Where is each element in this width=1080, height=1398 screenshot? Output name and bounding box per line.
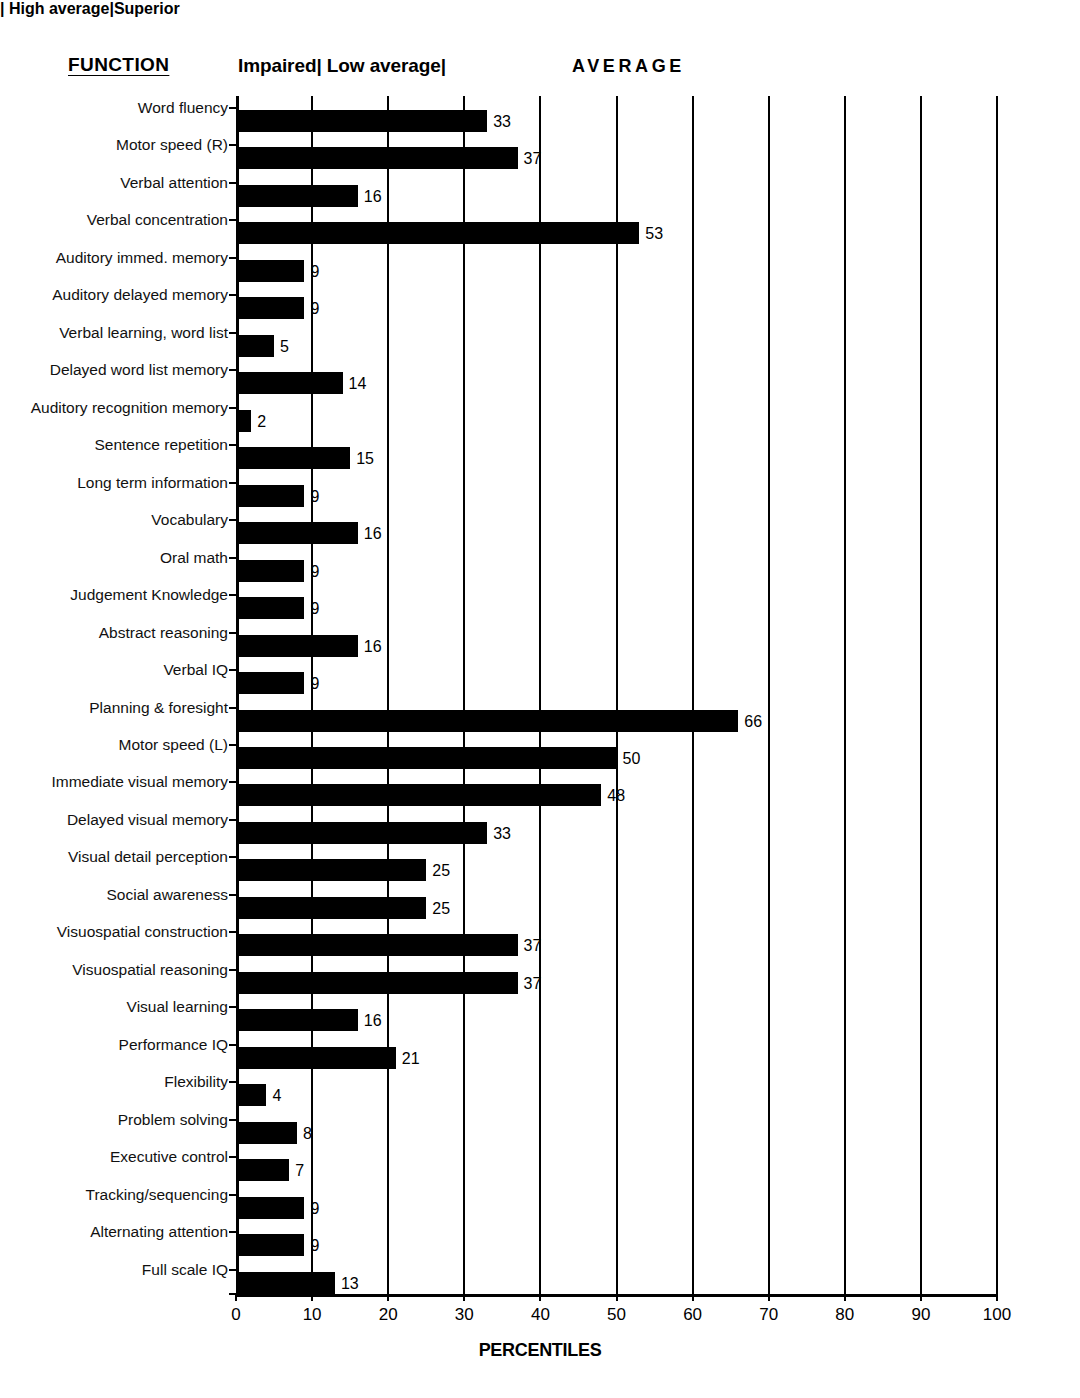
category-label: Visuospatial construction [0, 923, 228, 941]
bar [236, 672, 304, 694]
x-tick-label-10: 10 [303, 1305, 322, 1325]
bar [236, 147, 518, 169]
x-tick-label-70: 70 [759, 1305, 778, 1325]
category-label: Verbal learning, word list [0, 324, 228, 342]
bar-value-label: 9 [310, 1200, 319, 1218]
bar [236, 1084, 266, 1106]
bar-value-label: 9 [310, 263, 319, 281]
bar-value-label: 2 [257, 413, 266, 431]
bar-value-label: 5 [280, 338, 289, 356]
x-tick-70 [768, 1294, 770, 1301]
bar [236, 222, 639, 244]
gridline-40 [539, 96, 541, 1295]
header-band-high-average-superior: | High average|Superior [0, 0, 180, 18]
x-tick-20 [387, 1294, 389, 1301]
bar [236, 1234, 304, 1256]
category-tick [229, 669, 237, 671]
category-tick [229, 407, 237, 409]
x-tick-0 [235, 1294, 237, 1301]
category-tick [229, 1081, 237, 1083]
category-tick [229, 1269, 237, 1271]
category-tick [229, 369, 237, 371]
category-tick [229, 894, 237, 896]
bar [236, 1197, 304, 1219]
category-label: Long term information [0, 474, 228, 492]
bar-value-label: 21 [402, 1050, 420, 1068]
bar-value-label: 53 [645, 225, 663, 243]
header-band-impaired-low-average: Impaired| Low average| [238, 55, 446, 77]
bar-value-label: 37 [524, 975, 542, 993]
category-label: Delayed visual memory [0, 811, 228, 829]
category-label: Vocabulary [0, 511, 228, 529]
bar [236, 1272, 335, 1294]
bar-value-label: 9 [310, 675, 319, 693]
category-tick [229, 1231, 237, 1233]
category-tick [229, 182, 237, 184]
category-tick [229, 482, 237, 484]
bar [236, 110, 487, 132]
category-label: Full scale IQ [0, 1261, 228, 1279]
gridline-50 [616, 96, 618, 1295]
category-label: Planning & foresight [0, 699, 228, 717]
bar-value-label: 16 [364, 188, 382, 206]
category-label: Judgement Knowledge [0, 586, 228, 604]
x-tick-label-100: 100 [983, 1305, 1011, 1325]
category-tick [229, 969, 237, 971]
category-label: Visuospatial reasoning [0, 961, 228, 979]
gridline-90 [920, 96, 922, 1295]
category-label: Word fluency [0, 99, 228, 117]
category-tick [229, 519, 237, 521]
category-label: Tracking/sequencing [0, 1186, 228, 1204]
bar [236, 1009, 358, 1031]
bar [236, 447, 350, 469]
x-tick-30 [463, 1294, 465, 1301]
category-label: Visual detail perception [0, 848, 228, 866]
bar-value-label: 9 [310, 563, 319, 581]
bar-value-label: 66 [744, 713, 762, 731]
header-function-label: FUNCTION [68, 54, 169, 76]
x-tick-label-30: 30 [455, 1305, 474, 1325]
category-tick [229, 144, 237, 146]
bar-value-label: 48 [607, 787, 625, 805]
bar [236, 522, 358, 544]
category-tick [229, 1044, 237, 1046]
bar-value-label: 9 [310, 488, 319, 506]
bar [236, 747, 617, 769]
category-label: Problem solving [0, 1111, 228, 1129]
x-tick-10 [311, 1294, 313, 1301]
category-label: Motor speed (L) [0, 736, 228, 754]
bar [236, 972, 518, 994]
bar [236, 560, 304, 582]
x-tick-100 [996, 1294, 998, 1301]
category-tick [229, 1119, 237, 1121]
category-label: Verbal concentration [0, 211, 228, 229]
category-label: Performance IQ [0, 1036, 228, 1054]
category-tick [229, 332, 237, 334]
category-label: Oral math [0, 549, 228, 567]
bar-value-label: 9 [310, 1237, 319, 1255]
bar-value-label: 16 [364, 638, 382, 656]
bar-value-label: 8 [303, 1125, 312, 1143]
bar-value-label: 25 [432, 900, 450, 918]
x-tick-label-0: 0 [231, 1305, 240, 1325]
x-tick-60 [692, 1294, 694, 1301]
bar-value-label: 33 [493, 825, 511, 843]
bar-value-label: 4 [272, 1087, 281, 1105]
x-tick-label-20: 20 [379, 1305, 398, 1325]
x-tick-label-60: 60 [683, 1305, 702, 1325]
x-tick-90 [920, 1294, 922, 1301]
bar [236, 372, 343, 394]
category-tick [229, 819, 237, 821]
x-tick-80 [844, 1294, 846, 1301]
category-label: Auditory delayed memory [0, 286, 228, 304]
category-tick [229, 107, 237, 109]
gridline-80 [844, 96, 846, 1295]
category-tick [229, 1006, 237, 1008]
category-label: Social awareness [0, 886, 228, 904]
x-tick-label-90: 90 [911, 1305, 930, 1325]
chart-page: FUNCTION Impaired| Low average| AVERAGE … [0, 0, 1080, 1398]
bar-value-label: 25 [432, 862, 450, 880]
bar-value-label: 33 [493, 113, 511, 131]
bar-value-label: 7 [295, 1162, 304, 1180]
category-tick [229, 856, 237, 858]
